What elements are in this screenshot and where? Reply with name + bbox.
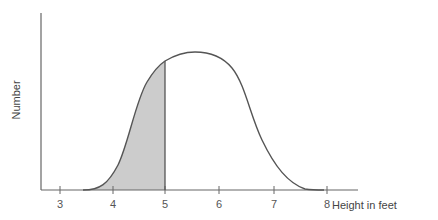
bell-curve-chart: [0, 0, 438, 220]
x-tick-label-3: 3: [57, 198, 63, 210]
x-axis-label: Height in feet: [332, 199, 397, 211]
x-tick-label-6: 6: [216, 198, 222, 210]
x-tick-label-8: 8: [324, 198, 330, 210]
x-tick-label-7: 7: [271, 198, 277, 210]
shaded-region: [83, 61, 165, 190]
y-axis-label: Number: [10, 80, 22, 119]
x-tick-label-5: 5: [162, 198, 168, 210]
x-tick-label-4: 4: [110, 198, 116, 210]
